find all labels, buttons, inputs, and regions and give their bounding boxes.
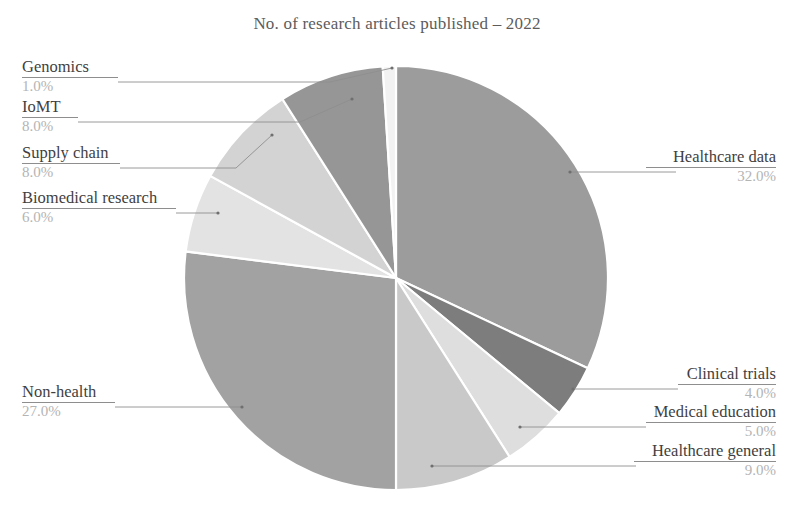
callout-value-supply-chain: 8.0% <box>22 164 120 181</box>
callout-value-healthcare-data: 32.0% <box>646 168 776 185</box>
callout-value-genomics: 1.0% <box>22 78 118 95</box>
callout-supply-chain: Supply chain 8.0% <box>22 144 120 181</box>
leader-dot-medical-education <box>518 425 521 428</box>
callout-value-healthcare-general: 9.0% <box>634 462 776 479</box>
callout-non-health: Non-health 27.0% <box>22 383 115 420</box>
pie-chart-figure: No. of research articles published – 202… <box>0 0 794 523</box>
leader-dot-biomedical-research <box>216 211 219 214</box>
callout-biomedical-research: Biomedical research 6.0% <box>22 189 176 226</box>
callout-clinical-trials: Clinical trials 4.0% <box>678 365 776 402</box>
callout-label-clinical-trials: Clinical trials <box>678 365 776 383</box>
callout-label-supply-chain: Supply chain <box>22 144 120 162</box>
callout-label-medical-education: Medical education <box>646 403 776 421</box>
callout-medical-education: Medical education 5.0% <box>646 403 776 440</box>
callout-label-non-health: Non-health <box>22 383 115 401</box>
callout-healthcare-data: Healthcare data 32.0% <box>646 148 776 185</box>
callout-label-healthcare-data: Healthcare data <box>646 148 776 166</box>
callout-value-biomedical-research: 6.0% <box>22 209 176 226</box>
callout-genomics: Genomics 1.0% <box>22 58 118 95</box>
callout-value-non-health: 27.0% <box>22 403 115 420</box>
callout-healthcare-general: Healthcare general 9.0% <box>634 442 776 479</box>
callout-label-biomedical-research: Biomedical research <box>22 189 176 207</box>
pie-slice-group <box>184 66 608 490</box>
callout-value-clinical-trials: 4.0% <box>678 385 776 402</box>
callout-label-iomt: IoMT <box>22 98 78 116</box>
leader-dot-genomics <box>390 66 393 69</box>
callout-value-medical-education: 5.0% <box>646 423 776 440</box>
pie-slice-non-health[interactable] <box>184 251 396 490</box>
leader-dot-iomt <box>350 97 353 100</box>
callout-iomt: IoMT 8.0% <box>22 98 78 135</box>
callout-label-healthcare-general: Healthcare general <box>634 442 776 460</box>
leader-dot-supply-chain <box>270 133 273 136</box>
leader-dot-clinical-trials <box>571 387 574 390</box>
callout-value-iomt: 8.0% <box>22 118 78 135</box>
callout-label-genomics: Genomics <box>22 58 118 76</box>
leader-dot-non-health <box>240 405 243 408</box>
leader-dot-healthcare-general <box>430 464 433 467</box>
leader-dot-healthcare-data <box>568 170 571 173</box>
